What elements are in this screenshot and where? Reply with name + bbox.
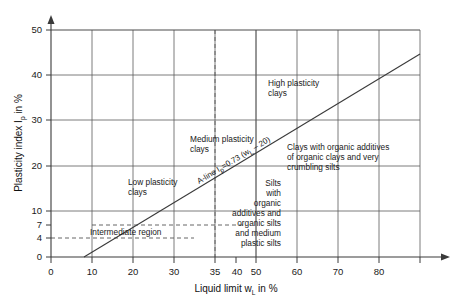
x-tick-label: 30 — [169, 266, 180, 277]
x-tick-label: 60 — [292, 266, 303, 277]
x-tick-label: 70 — [333, 266, 344, 277]
x-axis-ticks — [51, 257, 420, 263]
y-tick-label: 20 — [31, 160, 42, 171]
x-axis-tick-labels: 0 10 20 30 35 40 50 60 70 80 — [48, 266, 384, 277]
silts-block-line4: additives and — [232, 208, 281, 218]
y-axis-title-main: Plasticity index I — [13, 120, 24, 192]
x-tick-label: 50 — [251, 266, 262, 277]
annotation-low-plasticity-clays: Low plasticity clays — [128, 177, 178, 197]
annotation-high-plasticity-clays: High plasticity clays — [268, 78, 320, 98]
organic-block-line2: of organic clays and very — [287, 152, 380, 162]
high-plasticity-line2: clays — [268, 88, 287, 98]
annotation-intermediate-region: Intermediate region — [90, 227, 162, 237]
y-tick-label: 7 — [37, 219, 42, 230]
annotation-organic-clays-block: Clays with organic additives of organic … — [287, 142, 389, 172]
annotation-silts-block: Silts with organic additives and organic… — [232, 178, 281, 248]
silts-block-line2: with — [265, 188, 281, 198]
y-tick-label: 40 — [31, 69, 42, 80]
x-tick-label: 40 — [232, 266, 243, 277]
y-tick-label: 10 — [31, 205, 42, 216]
y-axis-arrow — [48, 15, 55, 24]
x-tick-label: 80 — [374, 266, 385, 277]
x-axis-title-main: Liquid limit w — [194, 283, 252, 294]
medium-plasticity-line1: Medium plasticity — [190, 134, 254, 144]
x-axis-title-unit: in % — [255, 283, 277, 294]
y-axis-title-unit: in % — [13, 94, 24, 116]
low-plasticity-line1: Low plasticity — [128, 177, 178, 187]
high-plasticity-line1: High plasticity — [268, 78, 320, 88]
silts-block-line1: Silts — [265, 178, 281, 188]
x-tick-label: 20 — [128, 266, 139, 277]
organic-block-line1: Clays with organic additives — [287, 142, 389, 152]
y-tick-label: 50 — [31, 24, 42, 35]
organic-block-line3: crumbling silts — [287, 162, 340, 172]
x-tick-label: 0 — [48, 266, 53, 277]
medium-plasticity-line2: clays — [190, 144, 209, 154]
plasticity-chart-figure: 0 4 7 10 20 30 40 50 0 10 20 30 35 40 50… — [0, 0, 456, 306]
silts-block-line6: and medium — [235, 228, 281, 238]
y-axis-tick-labels: 0 4 7 10 20 30 40 50 — [31, 24, 42, 262]
low-plasticity-line2: clays — [128, 187, 147, 197]
silts-block-line3: organic — [254, 198, 281, 208]
x-tick-label: 35 — [210, 266, 221, 277]
horizontal-gridlines — [51, 30, 420, 211]
y-tick-label: 30 — [31, 114, 42, 125]
silts-block-line7: plastic silts — [241, 238, 281, 248]
x-tick-label: 10 — [87, 266, 98, 277]
y-tick-label: 0 — [37, 251, 42, 262]
chart-svg: 0 4 7 10 20 30 40 50 0 10 20 30 35 40 50… — [0, 0, 456, 306]
y-tick-label: 4 — [37, 232, 42, 243]
x-axis-arrow — [441, 254, 450, 261]
silts-block-line5: organic silts — [237, 218, 281, 228]
y-axis-ticks — [46, 30, 51, 257]
y-axis-title: Plasticity index Ip in % — [13, 94, 27, 192]
x-axis-title: Liquid limit wL in % — [194, 283, 277, 296]
